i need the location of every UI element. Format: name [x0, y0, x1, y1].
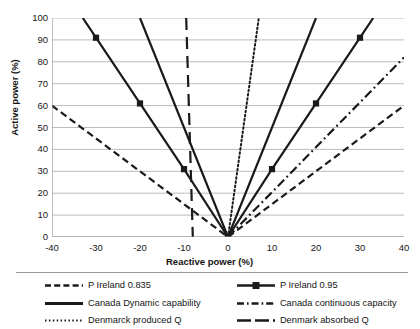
- chart-legend: P Ireland 0.835Canada Dynamic capability…: [16, 272, 408, 329]
- series-marker-1-3: [181, 166, 187, 172]
- x-tick-label--20: -20: [120, 243, 160, 253]
- series-marker-1-6: [313, 100, 319, 106]
- x-tick-label--40: -40: [32, 243, 72, 253]
- plot-area: [52, 18, 404, 237]
- legend-item-label: Denmarck produced Q: [88, 315, 182, 326]
- long-dash-line-swatch: [236, 315, 276, 326]
- dotted-line-swatch: [44, 315, 84, 326]
- x-tick-label-30: 30: [340, 243, 380, 253]
- dashed-line-swatch: [44, 280, 84, 291]
- y-axis-title: Active power (%): [9, 38, 20, 158]
- y-tick-label-30: 30: [18, 166, 48, 176]
- series-marker-1-2: [137, 100, 143, 106]
- legend-item[interactable]: Canada continuous capacity: [236, 297, 408, 310]
- x-tick-label-20: 20: [296, 243, 336, 253]
- legend-square-marker: [252, 282, 259, 289]
- series-line-3: [228, 57, 404, 237]
- legend-item-label: P Ireland 0.835: [88, 280, 151, 291]
- legend-item-label: Canada Dynamic capability: [88, 298, 201, 309]
- y-tick-label-10: 10: [18, 210, 48, 220]
- series-marker-1-7: [357, 35, 363, 41]
- solid-square-marker-line-swatch: [236, 280, 276, 291]
- y-tick-label-0: 0: [18, 232, 48, 242]
- y-tick-label-80: 80: [18, 57, 48, 67]
- plot-svg: [52, 18, 404, 237]
- legend-item[interactable]: Denmark absorbed Q: [236, 314, 408, 327]
- legend-item-label: P Ireland 0.95: [280, 280, 338, 291]
- x-tick-label--10: -10: [164, 243, 204, 253]
- x-axis-title: Reactive power (%): [166, 256, 253, 267]
- y-tick-label-60: 60: [18, 101, 48, 111]
- y-tick-label-70: 70: [18, 79, 48, 89]
- legend-item-label: Denmark absorbed Q: [280, 315, 369, 326]
- legend-item[interactable]: Denmarck produced Q: [44, 314, 228, 327]
- legend-item[interactable]: P Ireland 0.95: [236, 279, 408, 292]
- legend-item[interactable]: P Ireland 0.835: [44, 279, 228, 292]
- x-tick-label-0: 0: [208, 243, 248, 253]
- series-marker-1-1: [93, 35, 99, 41]
- series-marker-1-5: [269, 166, 275, 172]
- solid-line-swatch: [44, 298, 84, 309]
- x-tick-label-10: 10: [252, 243, 292, 253]
- y-tick-label-20: 20: [18, 188, 48, 198]
- x-tick-label--30: -30: [76, 243, 116, 253]
- chart-container: 0102030405060708090100 Active power (%) …: [0, 0, 420, 329]
- legend-item-label: Canada continuous capacity: [280, 298, 397, 309]
- y-tick-label-90: 90: [18, 35, 48, 45]
- legend-column-left: P Ireland 0.835Canada Dynamic capability…: [16, 279, 228, 329]
- dash-dot-line-swatch: [236, 298, 276, 309]
- x-tick-label-40: 40: [384, 243, 420, 253]
- data-markers-layer: [93, 35, 363, 237]
- y-tick-label-50: 50: [18, 123, 48, 133]
- legend-column-right: P Ireland 0.95Canada continuous capacity…: [228, 279, 408, 329]
- y-tick-label-40: 40: [18, 144, 48, 154]
- legend-item[interactable]: Canada Dynamic capability: [44, 297, 228, 310]
- y-tick-label-100: 100: [18, 13, 48, 23]
